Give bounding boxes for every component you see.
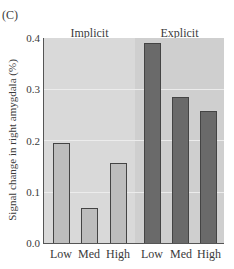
xtick-implicit-med: Med bbox=[74, 247, 104, 262]
bar-implicit-high bbox=[110, 163, 127, 243]
ytick-0.4: 0.4 bbox=[12, 32, 40, 44]
plot-area bbox=[44, 38, 224, 243]
xtick-implicit-high: High bbox=[103, 247, 133, 262]
gridline-0.2 bbox=[44, 140, 224, 141]
bar-implicit-low bbox=[53, 143, 70, 243]
bar-explicit-high bbox=[200, 111, 217, 243]
x-axis bbox=[43, 243, 224, 244]
bar-explicit-med bbox=[172, 97, 189, 243]
xtick-explicit-high: High bbox=[194, 247, 224, 262]
y-axis-label: Signal change in right amygdala (%) bbox=[6, 59, 18, 221]
bar-implicit-med bbox=[81, 208, 98, 243]
panel-label: (C) bbox=[2, 8, 18, 23]
gridline-0.1 bbox=[44, 192, 224, 193]
xtick-explicit-low: Low bbox=[137, 247, 167, 262]
ytick-0.0: 0.0 bbox=[12, 237, 40, 249]
xtick-implicit-low: Low bbox=[46, 247, 76, 262]
bar-explicit-low bbox=[144, 43, 161, 243]
xtick-explicit-med: Med bbox=[166, 247, 196, 262]
gridline-0.3 bbox=[44, 89, 224, 90]
y-axis bbox=[43, 38, 44, 244]
